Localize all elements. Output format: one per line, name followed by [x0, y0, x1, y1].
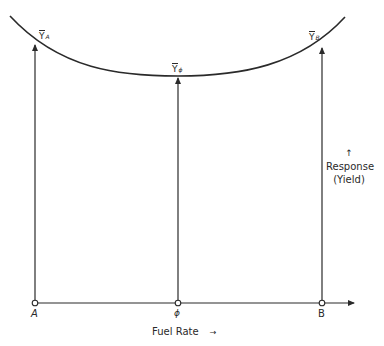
ybar-B-symbol: Y: [309, 31, 315, 42]
y-axis-label-line1: Response: [326, 160, 372, 173]
ybar-phi-subscript: ϕ: [179, 66, 183, 73]
x-axis-label: Fuel Rate →: [152, 327, 216, 337]
ybar-B-label: YB: [309, 31, 320, 42]
ybar-A-symbol: Y: [39, 30, 45, 41]
y-axis-label-line2: (Yield): [326, 173, 372, 186]
ybar-A-subscript: A: [46, 33, 50, 40]
ybar-B-subscript: B: [316, 34, 320, 41]
x-axis-label-text: Fuel Rate: [152, 326, 199, 337]
point-A-label: A: [31, 309, 38, 319]
x-axis-arrow-icon: →: [210, 328, 217, 337]
ybar-A-label: YA: [39, 30, 50, 41]
point-B-label: B: [318, 309, 325, 319]
ybar-phi-symbol: Y: [172, 63, 178, 74]
point-phi-marker: [175, 300, 181, 306]
y-axis-label: ↑ Response (Yield): [326, 147, 372, 186]
point-A-marker: [32, 300, 38, 306]
point-phi-label: ϕ: [174, 309, 180, 318]
point-B-marker: [319, 300, 325, 306]
ybar-phi-label: Yϕ: [172, 63, 182, 74]
y-axis-arrow-icon: ↑: [326, 147, 372, 160]
